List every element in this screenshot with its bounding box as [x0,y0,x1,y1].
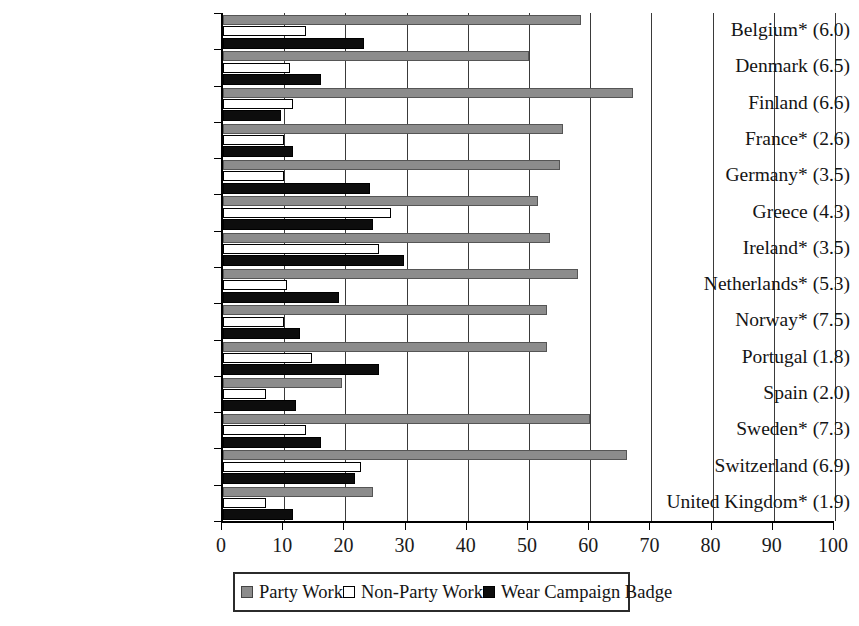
bar-badge [223,183,370,194]
bar-party [223,160,560,170]
bar-party [223,450,627,460]
bar-nonparty [223,353,312,363]
x-axis-tick-label: 40 [436,533,496,557]
bar-nonparty [223,63,290,73]
gridline [835,13,836,521]
x-axis-tick [527,521,528,530]
bar-nonparty [223,498,266,508]
bar-badge [223,146,293,157]
bar-badge [223,38,364,49]
category-tick [214,340,223,341]
legend-swatch-wear-campaign-badge-icon [483,586,495,598]
legend-label: Party Work [259,582,343,602]
bar-badge [223,473,355,484]
bar-badge [223,74,321,85]
category-tick [214,376,223,377]
bar-nonparty [223,208,391,218]
category-tick [214,13,223,14]
category-tick [214,122,223,123]
bar-badge [223,328,300,339]
bar-party [223,414,590,424]
legend-label: Non-Party Work [361,582,483,602]
bar-party [223,378,342,388]
category-label: France* (2.6) [649,129,859,149]
x-axis-tick-label: 20 [313,533,373,557]
x-axis-tick [588,521,589,530]
bar-party [223,269,578,279]
bar-badge [223,364,379,375]
bar-nonparty [223,389,266,399]
category-tick [214,158,223,159]
bar-party [223,305,547,315]
category-label: Denmark (6.5) [649,56,859,76]
gridline [651,13,652,521]
x-axis-tick-label: 50 [497,533,557,557]
x-axis-tick [772,521,773,530]
gridline [713,13,714,521]
x-axis-tick-label: 70 [619,533,679,557]
x-axis-tick-label: 90 [742,533,802,557]
chart-title-clipped [221,0,833,1]
bar-party [223,88,633,98]
x-axis-tick-label: 0 [191,533,251,557]
x-axis-tick [282,521,283,530]
x-axis-tick [343,521,344,530]
category-label: Spain (2.0) [649,383,859,403]
bar-nonparty [223,26,306,36]
x-axis-tick [221,521,222,530]
bar-badge [223,400,296,411]
bar-nonparty [223,171,284,181]
bar-badge [223,110,281,121]
bar-nonparty [223,317,284,327]
category-label: Switzerland (6.9) [649,456,859,476]
x-axis-tick-label: 60 [558,533,618,557]
category-label: United Kingdom* (1.9) [649,492,859,512]
x-axis-tick-label: 10 [252,533,312,557]
bar-nonparty [223,244,379,254]
category-tick [214,49,223,50]
category-label: Ireland* (3.5) [649,238,859,258]
x-axis-tick [466,521,467,530]
bar-badge [223,292,339,303]
x-axis-tick-label: 100 [803,533,859,557]
bar-nonparty [223,425,306,435]
category-label: Finland (6.6) [649,93,859,113]
category-tick [214,267,223,268]
bar-nonparty [223,135,284,145]
category-label: Greece (4.3) [649,202,859,222]
bar-badge [223,219,373,230]
category-tick [214,86,223,87]
plot-area [221,13,835,521]
bar-nonparty [223,462,361,472]
bar-party [223,124,563,134]
legend: Party Work Non-Party Work Wear Campaign … [233,572,630,612]
x-axis-tick-label: 80 [681,533,741,557]
category-tick [214,303,223,304]
category-tick [214,485,223,486]
bar-chart: 0102030405060708090100 Belgium* (6.0)Den… [0,0,859,626]
bar-party [223,15,581,25]
x-axis-tick-label: 30 [375,533,435,557]
bar-party [223,342,547,352]
legend-item: Wear Campaign Badge [483,582,672,602]
bar-party [223,196,538,206]
bar-badge [223,437,321,448]
x-axis-tick [405,521,406,530]
bar-party [223,233,550,243]
category-label: Belgium* (6.0) [649,20,859,40]
bar-badge [223,255,404,266]
bar-badge [223,509,293,520]
category-tick [214,231,223,232]
bar-nonparty [223,99,293,109]
gridline [774,13,775,521]
category-tick [214,194,223,195]
legend-label: Wear Campaign Badge [501,582,672,602]
category-label: Norway* (7.5) [649,310,859,330]
category-label: Sweden* (7.3) [649,419,859,439]
legend-item: Party Work [241,582,343,602]
bar-party [223,487,373,497]
x-axis-tick [649,521,650,530]
category-tick [214,412,223,413]
category-tick [214,448,223,449]
category-label: Netherlands* (5.3) [649,274,859,294]
